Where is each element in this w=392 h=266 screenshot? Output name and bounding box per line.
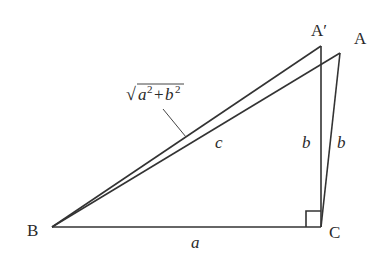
side-label-b-left: b [302,133,311,152]
side-label-b-right: b [337,133,346,152]
vertex-label-c: C [329,223,340,242]
formula-plus: + [154,85,164,104]
formula-a: a [138,85,147,104]
sqrt-symbol: √ [126,84,136,104]
formula-leader-line [163,109,186,137]
formula-b: b [165,85,174,104]
side-c-line [52,53,340,227]
vertex-label-b: B [27,221,38,240]
formula-a-exponent: 2 [147,83,153,95]
triangle-diagram: A′ A B C a b b c √ a 2 + b 2 [0,0,392,266]
formula-b-exponent: 2 [175,83,181,95]
hypotenuse-sqrt-line [52,46,321,227]
side-label-c: c [215,133,223,152]
vertex-label-a-prime: A′ [311,21,327,40]
right-angle-marker [306,211,321,227]
side-label-a: a [191,233,200,252]
hypotenuse-formula-label: √ a 2 + b 2 [126,83,184,104]
vertex-label-a: A [354,29,367,48]
